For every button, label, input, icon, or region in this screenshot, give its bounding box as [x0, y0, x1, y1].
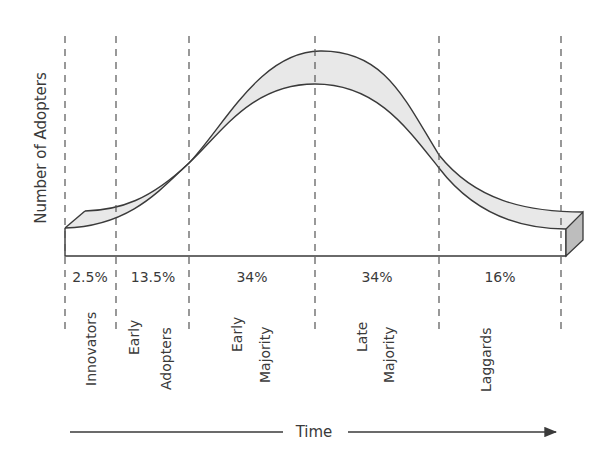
- percent-label: 16%: [484, 269, 515, 285]
- bell-curve-band: [65, 51, 583, 229]
- percent-label: 2.5%: [72, 269, 108, 285]
- segment-label-late-majority-line2: Majority: [381, 326, 397, 383]
- x-axis-label: Time: [295, 423, 333, 441]
- y-axis-label: Number of Adopters: [32, 72, 50, 224]
- diffusion-of-innovations-diagram: Number of Adopters 2.5% 13.5% 34% 34% 16…: [0, 0, 601, 462]
- percent-label: 13.5%: [131, 269, 175, 285]
- percent-label: 34%: [361, 269, 392, 285]
- segment-label-late-majority-line1: Late: [354, 322, 370, 352]
- segment-label-laggards: Laggards: [478, 328, 494, 392]
- segment-label-early-majority-line1: Early: [229, 317, 245, 352]
- percent-label: 34%: [236, 269, 267, 285]
- segment-label-early-adopters-line1: Early: [126, 320, 142, 355]
- segment-label-innovators: Innovators: [83, 312, 99, 386]
- segment-label-early-adopters-line2: Adopters: [158, 327, 174, 390]
- segment-label-early-majority-line2: Majority: [257, 326, 273, 383]
